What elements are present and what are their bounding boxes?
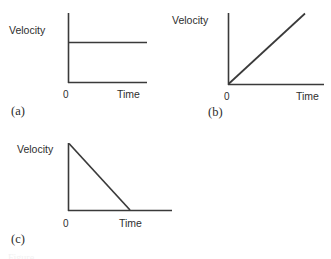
panel-b-plot [221, 8, 329, 90]
panel-a-plot [60, 8, 155, 90]
panel-c-x-axis-label: Time [119, 217, 142, 229]
panel-c-x-origin-tick: 0 [63, 218, 69, 229]
panel-c-y-axis-label: Velocity [17, 143, 53, 155]
panel-c-plot [60, 138, 175, 216]
velocity-time-figure: Velocity 0 Time (a) Velocity 0 Time (b) [0, 0, 331, 259]
panel-c-caption: (c) [11, 232, 25, 246]
panel-b-caption: (b) [208, 105, 223, 119]
panel-b: Velocity 0 Time (b) [165, 0, 331, 125]
panel-c: Velocity 0 Time (c) [0, 130, 190, 259]
cut-off-footer: Figure [8, 252, 208, 259]
panel-b-x-axis-label: Time [296, 90, 319, 102]
panel-a: Velocity 0 Time (a) [0, 0, 165, 125]
panel-a-caption: (a) [11, 104, 25, 118]
panel-a-y-axis-label: Velocity [9, 24, 45, 36]
panel-a-x-origin-tick: 0 [63, 89, 69, 100]
panel-a-x-axis-label: Time [117, 88, 140, 100]
panel-b-y-axis-label: Velocity [172, 14, 208, 26]
panel-b-x-origin-tick: 0 [224, 91, 230, 102]
